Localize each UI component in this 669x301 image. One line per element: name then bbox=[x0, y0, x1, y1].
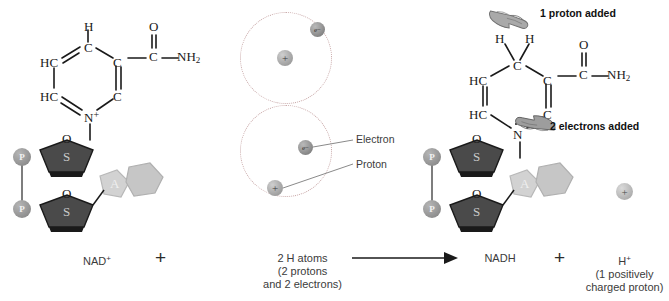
nadh-sugar-o-2: O bbox=[472, 187, 481, 200]
nad-phosphate-1: P bbox=[13, 148, 31, 166]
nad-sugar-s-2: S bbox=[63, 205, 70, 218]
product-proton-line-1: (1 positively bbox=[572, 268, 669, 281]
nad-adenine-label: A bbox=[110, 177, 119, 190]
nad-sugar-s-1: S bbox=[63, 150, 70, 163]
product-proton-line-2: charged proton) bbox=[572, 281, 669, 294]
nad-backbone-shapes bbox=[0, 0, 210, 250]
nadh-phosphate-1: P bbox=[423, 148, 441, 166]
nadh-sugar-s-2: S bbox=[473, 205, 480, 218]
hydrogen-atoms-group: e− + e− + Electron Proton bbox=[215, 0, 405, 250]
figure-canvas: H C HC HC C C N+ O C NH2 P P O bbox=[0, 0, 669, 301]
nadh-sugar-s-1: S bbox=[473, 150, 480, 163]
annotation-electrons-added: 2 electrons added bbox=[550, 120, 639, 132]
reaction-arrow bbox=[352, 248, 462, 268]
pointing-hand-proton-icon bbox=[483, 4, 539, 34]
nadh-adenine-label: A bbox=[520, 177, 529, 190]
particle-leader-lines bbox=[215, 0, 405, 250]
nad-plus-group: H C HC HC C C N+ O C NH2 P P O bbox=[0, 0, 210, 250]
annotation-proton-added: 1 proton added bbox=[540, 7, 616, 19]
product-proton-sphere: + bbox=[616, 183, 633, 200]
nadh-sugar-o-1: O bbox=[472, 132, 481, 145]
nad-plus-caption: NAD+ bbox=[62, 252, 132, 268]
h-caption-line-3: and 2 electrons) bbox=[215, 278, 390, 291]
product-proton-caption: H+ (1 positively charged proton) bbox=[572, 252, 669, 294]
nadh-caption: NADH bbox=[470, 252, 530, 265]
reactant-plus-sign: + bbox=[155, 248, 166, 267]
product-plus-sign: + bbox=[554, 248, 565, 267]
nad-sugar-o-2: O bbox=[62, 187, 71, 200]
product-proton-label: H+ bbox=[572, 252, 669, 268]
electron-label: Electron bbox=[356, 133, 395, 145]
nad-sugar-o-1: O bbox=[62, 132, 71, 145]
nadh-phosphate-2: P bbox=[423, 200, 441, 218]
proton-label: Proton bbox=[356, 158, 387, 170]
nad-phosphate-2: P bbox=[13, 200, 31, 218]
nadh-group: H H C HC HC C C N O C NH2 P P O S O S A bbox=[410, 0, 625, 250]
